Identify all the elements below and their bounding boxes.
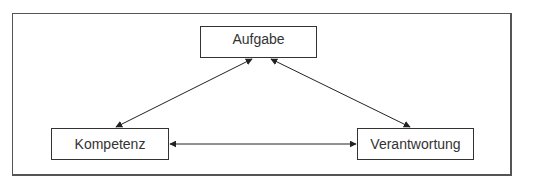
node-verantwortung: Verantwortung — [357, 128, 474, 160]
node-aufgabe-label: Aufgabe — [232, 31, 284, 47]
node-kompetenz-label: Kompetenz — [75, 136, 146, 152]
node-aufgabe: Aufgabe — [200, 26, 317, 58]
node-kompetenz: Kompetenz — [51, 128, 169, 160]
arrow-aufgabe-kompetenz — [116, 59, 252, 127]
arrow-aufgabe-verantwortung — [271, 59, 410, 127]
node-verantwortung-label: Verantwortung — [370, 136, 460, 152]
